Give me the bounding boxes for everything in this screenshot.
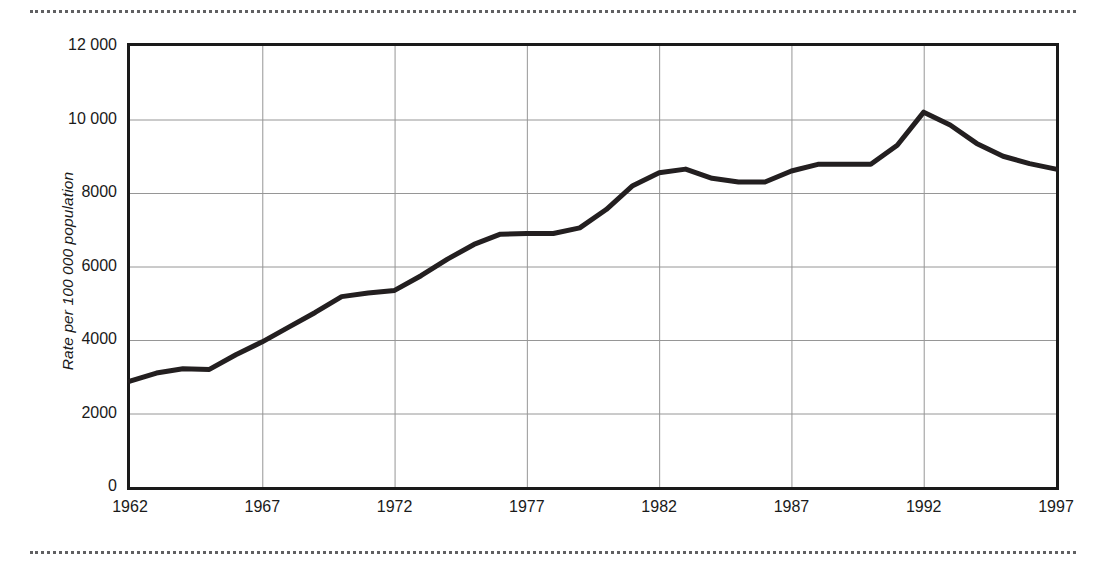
y-tick-label: 6000 (31, 257, 117, 275)
x-tick-label: 1967 (217, 498, 307, 516)
x-tick-label: 1982 (614, 498, 704, 516)
x-tick-label: 1977 (482, 498, 572, 516)
y-tick-label: 4000 (31, 330, 117, 348)
y-tick-label: 8000 (31, 183, 117, 201)
x-tick-label: 1997 (1011, 498, 1101, 516)
x-tick-label: 1972 (350, 498, 440, 516)
y-tick-label: 12 000 (31, 36, 117, 54)
x-tick-label: 1962 (85, 498, 175, 516)
line-chart-svg (0, 0, 1107, 569)
y-tick-label: 0 (31, 477, 117, 495)
figure-container: Rate per 100 000 population 020004000600… (0, 0, 1107, 569)
x-tick-label: 1992 (879, 498, 969, 516)
y-tick-label: 2000 (31, 404, 117, 422)
plot-area: Rate per 100 000 population 020004000600… (0, 0, 1107, 569)
x-tick-label: 1987 (746, 498, 836, 516)
y-tick-label: 10 000 (31, 110, 117, 128)
gridlines-horizontal (130, 120, 1056, 414)
